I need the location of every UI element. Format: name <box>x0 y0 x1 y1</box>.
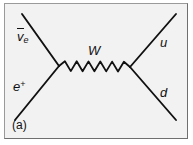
positron-superscript: + <box>20 79 25 89</box>
diagram-frame-border <box>4 3 188 139</box>
label-up-quark: u <box>160 36 167 49</box>
label-positron: e+ <box>13 80 26 93</box>
label-down-quark: d <box>160 86 167 99</box>
feynman-diagram-figure: ve e+ W u d (a) <box>0 0 193 145</box>
label-w-boson: W <box>88 44 100 57</box>
panel-label: (a) <box>12 119 27 131</box>
antineutrino-subscript: e <box>24 35 29 45</box>
label-antineutrino: ve <box>17 28 29 45</box>
